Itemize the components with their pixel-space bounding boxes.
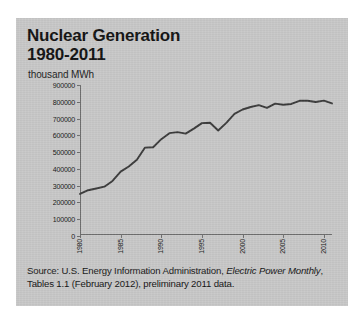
y-tick-label: 500000 [53, 149, 75, 156]
y-tick-label: 900000 [53, 82, 75, 89]
chart-title-line-1: Nuclear Generation [27, 26, 327, 45]
series-line-nuclear-generation [80, 85, 332, 236]
chart-title: Nuclear Generation 1980-2011 [27, 26, 327, 64]
chart-card: Nuclear Generation 1980-2011 thousand MW… [16, 18, 348, 306]
x-tick-label: 1980 [76, 239, 83, 254]
y-tick-label: 700000 [53, 115, 75, 122]
chart-title-line-2: 1980-2011 [27, 45, 327, 64]
y-tick-label: 800000 [53, 98, 75, 105]
y-tick-label: 0 [71, 233, 75, 240]
x-tick-label: 1995 [198, 239, 205, 254]
x-tick-label: 2005 [279, 239, 286, 254]
source-note: Source: U.S. Energy Information Administ… [27, 264, 339, 290]
y-tick-label: 100000 [53, 216, 75, 223]
plot-area: 9000008000007000006000005000004000003000… [80, 85, 332, 235]
x-tick-label: 1985 [117, 239, 124, 254]
source-publication: Electric Power Monthly [226, 265, 320, 276]
y-tick-label: 600000 [53, 132, 75, 139]
y-tick-label: 400000 [53, 165, 75, 172]
source-prefix: Source: U.S. Energy Information Administ… [27, 265, 226, 276]
x-tick-label: 1990 [157, 239, 164, 254]
y-tick-label: 200000 [53, 199, 75, 206]
x-tick-label: 2010 [320, 239, 327, 254]
y-tick-label: 300000 [53, 182, 75, 189]
x-tick-label: 2000 [239, 239, 246, 254]
y-axis-units-label: thousand MWh [28, 69, 94, 80]
